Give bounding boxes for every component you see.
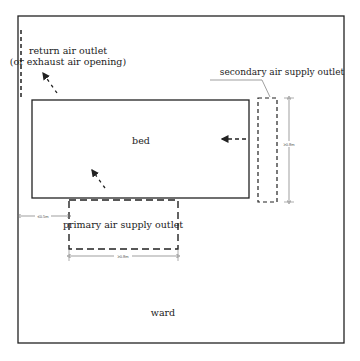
bed-label: bed: [132, 135, 150, 146]
ward-airflow-diagram: return air outlet (or exhaust air openin…: [0, 0, 360, 361]
secondary-height-value: ≥0.8m: [283, 142, 295, 147]
return-outlet-label-line2: (or exhaust air opening): [10, 56, 126, 67]
bed: [32, 100, 249, 198]
secondary-air-supply-outlet: [258, 98, 277, 202]
ward-label: ward: [151, 307, 175, 318]
return-outlet-label-line1: return air outlet: [29, 45, 107, 56]
secondary-outlet-label: secondary air supply outlet: [220, 67, 345, 77]
primary-flow-arrow: [92, 170, 105, 188]
return-flow-arrow: [43, 73, 57, 93]
primary-width-value: ≥0.8m: [117, 254, 129, 259]
primary-offset-value: ≤0.5m: [37, 214, 49, 219]
primary-outlet-label: primary air supply outlet: [63, 219, 183, 230]
secondary-leader-line: [210, 80, 270, 97]
